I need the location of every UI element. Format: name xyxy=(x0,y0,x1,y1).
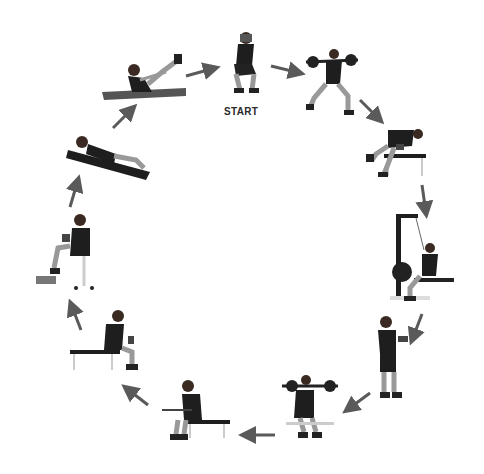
exercise-barbell-wrist-curl-figure xyxy=(158,376,234,444)
flow-arrow-icon xyxy=(412,314,422,340)
exercise-seated-press-figure xyxy=(280,374,340,444)
flow-arrow-icon xyxy=(347,393,370,410)
flow-arrow-icon xyxy=(271,66,300,73)
flow-arrow-icon xyxy=(126,388,148,405)
flow-arrow-icon xyxy=(113,108,133,128)
workout-circuit-diagram: START xyxy=(0,0,484,474)
exercise-cable-machine-figure xyxy=(390,210,456,306)
flow-arrow-icon xyxy=(70,180,78,207)
flow-arrow-icon xyxy=(422,185,426,213)
exercise-crunch-figure xyxy=(66,132,152,182)
exercise-v-up-figure xyxy=(100,52,188,102)
flow-arrow-icon xyxy=(360,100,380,120)
exercise-hammer-curl-figure xyxy=(372,314,412,404)
exercise-dumbbell-wrist-curl-figure xyxy=(68,308,140,372)
flow-arrow-icon xyxy=(186,68,215,76)
exercise-squat-figure xyxy=(222,28,270,98)
exercise-barbell-lunge-figure xyxy=(304,42,360,116)
exercise-dumbbell-row-figure xyxy=(366,124,432,184)
start-label: START xyxy=(224,106,258,117)
exercise-calf-raise-figure xyxy=(36,212,98,292)
